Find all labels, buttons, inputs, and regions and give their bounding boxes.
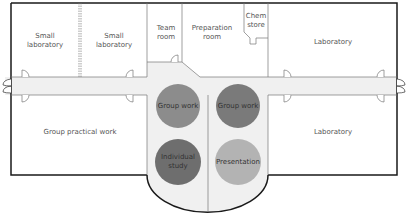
room-label: laboratory: [96, 41, 132, 50]
room-group-practical-work: Group practical work: [44, 128, 117, 137]
room-label: store: [246, 21, 266, 30]
zone-label-presentation: Presentation: [216, 158, 260, 167]
corridor: [5, 77, 397, 212]
door-right-exterior: [397, 79, 405, 93]
room-small-lab-2: Small laboratory: [96, 32, 132, 50]
room-label: Chem: [246, 12, 266, 21]
zone-label: Individual: [161, 153, 195, 162]
room-label: laboratory: [27, 41, 63, 50]
zone-label-group-work-right: Group work: [218, 102, 258, 111]
room-label: Team: [157, 24, 176, 33]
room-laboratory-top: Laboratory: [314, 38, 352, 47]
room-label: room: [157, 33, 176, 42]
room-label: Small: [27, 32, 63, 41]
room-laboratory-bottom: Laboratory: [314, 128, 352, 137]
room-team-room: Team room: [157, 24, 176, 42]
room-preparation: Preparation room: [192, 24, 232, 42]
room-small-lab-1: Small laboratory: [27, 32, 63, 50]
room-chem-store: Chem store: [246, 12, 266, 30]
room-label: room: [192, 33, 232, 42]
zone-label-group-work-left: Group work: [158, 102, 198, 111]
room-label: Small: [96, 32, 132, 41]
door-left-exterior: [3, 79, 11, 93]
zone-label-individual-study: Individual study: [161, 153, 195, 171]
room-label: Preparation: [192, 24, 232, 33]
zone-label: study: [161, 162, 195, 171]
